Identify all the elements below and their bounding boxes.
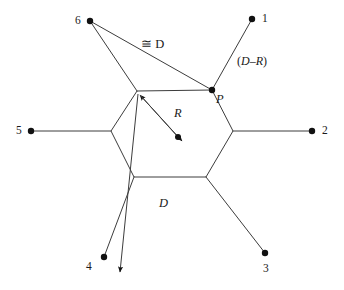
hexagon-polygon (111, 90, 233, 177)
node-label-2: 2 (322, 125, 328, 137)
node-dot-2 (309, 128, 315, 134)
vector-D-vector (120, 94, 138, 272)
d-minus-r-d: D (241, 54, 250, 68)
congruent-d-label: ≅ D (141, 38, 164, 51)
node-label-6: 6 (75, 15, 81, 27)
d-minus-r-r: R (256, 54, 263, 68)
node-label-5: 5 (16, 125, 22, 137)
node-label-1: 1 (262, 13, 268, 25)
edge-node-6-to-vertex-top-left (90, 21, 137, 91)
edge-node-4-to-vertex-bottom-left (104, 177, 134, 257)
edge-node-3-to-vertex-bottom-right (206, 177, 265, 253)
edges-group (31, 19, 312, 257)
edge-node-6-to-vertex-top-right-P (90, 21, 212, 90)
node-dot-3 (262, 250, 268, 256)
nodes-group (28, 16, 315, 260)
node-dot-5 (28, 128, 34, 134)
node-dot-4 (101, 254, 107, 260)
node-dot-1 (249, 16, 255, 22)
node-label-3: 3 (263, 263, 269, 275)
diagram-svg (0, 0, 344, 290)
node-dot-P (209, 87, 215, 93)
point-p-label: P (216, 93, 224, 106)
node-dot-6 (87, 18, 93, 24)
distance-d-label: D (159, 197, 168, 210)
vectors-group (120, 94, 182, 272)
hexagon-outline (111, 90, 233, 177)
node-label-4: 4 (86, 261, 92, 273)
figure-canvas: 1 2 3 4 5 6 ≅ D (D–R) P R D (0, 0, 344, 290)
d-minus-r-label: (D–R) (237, 55, 267, 67)
center-point-dot (175, 134, 181, 140)
radius-r-label: R (174, 107, 182, 120)
